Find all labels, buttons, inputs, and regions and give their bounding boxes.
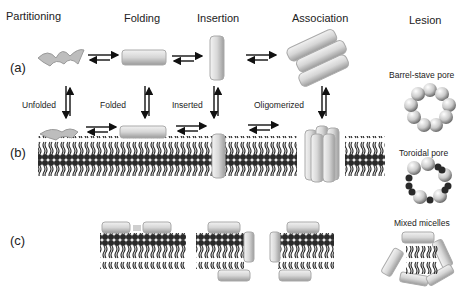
equilibrium-arrow-icon xyxy=(176,126,206,131)
transmembrane-helix-icon xyxy=(212,134,225,178)
barrel-stave-pore-icon xyxy=(404,83,456,132)
lipid-bilayer xyxy=(225,136,297,176)
vertical-equilibrium-arrows xyxy=(66,86,326,118)
lipid-bilayer xyxy=(345,136,385,176)
diagram-canvas xyxy=(0,0,470,298)
equilibrium-arrow-icon xyxy=(246,55,276,60)
carpet-bilayer xyxy=(100,222,186,269)
inserted-helix-icon xyxy=(210,36,224,80)
helix-bundle-icon xyxy=(285,26,354,88)
disrupted-bilayer-left xyxy=(196,222,254,281)
mixed-micelle-icon xyxy=(381,232,455,286)
equilibrium-arrow-icon xyxy=(86,127,116,132)
disrupted-bilayer-right xyxy=(270,222,334,281)
lipid-bilayer xyxy=(150,136,212,176)
equilibrium-arrow-icon xyxy=(172,56,202,61)
toroidal-pore-icon xyxy=(406,157,453,204)
unfolded-peptide-icon xyxy=(38,50,84,66)
surface-helix-icon xyxy=(120,126,166,138)
equilibrium-arrow-icon xyxy=(248,125,278,130)
equilibrium-arrow-icon xyxy=(88,55,118,60)
oligomer-bundle-icon xyxy=(305,126,339,182)
helix-cylinder-icon xyxy=(122,50,166,65)
lipid-bilayer xyxy=(38,136,150,176)
